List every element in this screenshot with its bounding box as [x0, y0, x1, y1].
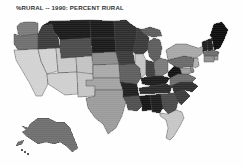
state-ia	[116, 52, 135, 65]
state-ne	[92, 52, 119, 65]
state-or	[14, 34, 38, 50]
page-title: %RURAL -- 1990: PERCENT RURAL	[16, 4, 124, 11]
state-in	[146, 60, 155, 77]
state-az	[47, 72, 78, 95]
state-sd	[91, 38, 116, 53]
state-fl	[160, 110, 184, 140]
state-oh	[154, 58, 168, 76]
state-nd	[90, 20, 115, 38]
state-wa	[17, 22, 38, 36]
state-ak-aleutians	[16, 140, 24, 146]
state-ri	[214, 56, 218, 60]
state-tn	[139, 84, 172, 94]
state-mn	[114, 20, 137, 52]
state-al	[150, 94, 163, 113]
state-hi-3	[27, 153, 29, 155]
state-wy	[60, 38, 92, 58]
state-ak	[22, 118, 78, 152]
choropleth-map	[0, 16, 243, 166]
state-ct	[204, 56, 214, 62]
state-hi-1	[21, 149, 23, 151]
state-mo	[119, 64, 141, 84]
state-ms	[139, 95, 152, 111]
state-nj	[193, 58, 199, 68]
state-la	[123, 96, 142, 111]
state-ks	[93, 64, 120, 78]
map-figure: %RURAL -- 1990: PERCENT RURAL	[0, 0, 243, 166]
state-hi-2	[24, 151, 25, 152]
state-ar	[120, 82, 139, 97]
state-tx	[86, 90, 126, 134]
